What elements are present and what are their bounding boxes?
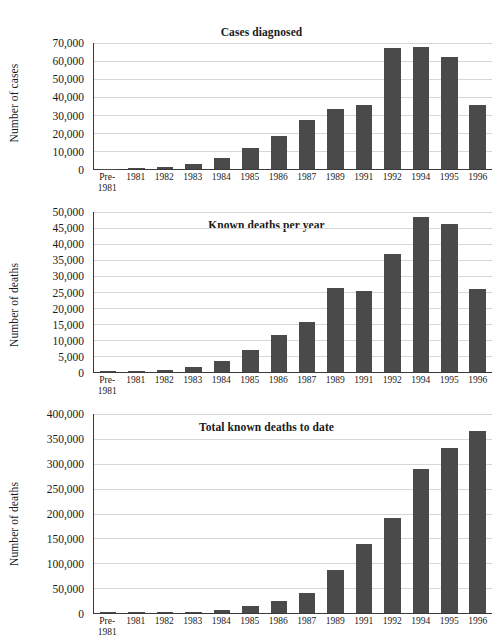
bar-slot [293,43,321,169]
bar-slot [122,43,150,169]
x-axis-tick-label: 1995 [435,172,464,193]
bar [441,224,457,372]
x-axis-tick-label: 1981 [122,616,151,637]
bar-slot [293,414,321,613]
y-axis-tick-label: 5,000 [58,351,84,363]
chart-cases-diagnosed: Number of cases Cases diagnosed 010,0002… [0,0,503,205]
y-axis-tick-label: 200,000 [47,508,84,520]
y-axis-tick-label: 50,000 [52,583,84,595]
bar-slot [435,414,463,613]
x-axis-tick-label: 1985 [236,616,265,637]
bar [441,57,457,169]
x-axis-tick-label: 1989 [321,616,350,637]
bar-slot [407,43,435,169]
x-axis-tick-label: 1991 [350,375,379,396]
x-axis-tick-label: 1996 [464,172,493,193]
chart-stack: Number of cases Cases diagnosed 010,0002… [0,0,503,642]
y-axis-tick-label: 40,000 [52,238,84,250]
bar-slot [407,212,435,372]
x-axis-tick-label: 1984 [207,172,236,193]
y-axis-tick-label: 20,000 [52,128,84,140]
bar [299,593,315,613]
y-axis-tick-label: 400,000 [47,408,84,420]
x-axis-tick-label: 1982 [150,172,179,193]
plot-frame [93,212,492,373]
bar [214,361,230,372]
x-axis-tick-label: 1981 [122,375,151,396]
x-axis-tick-label: 1992 [378,172,407,193]
x-axis-labels: Pre-198119811982198319841985198619871989… [93,375,492,396]
y-axis-tick-label: 10,000 [52,146,84,158]
bar-slot [435,43,463,169]
plot-area: 05,00010,00015,00020,00025,00030,00035,0… [93,212,492,373]
x-axis-tick-label: 1994 [407,616,436,637]
bar [299,120,315,170]
plot-area: 050,000100,000150,000200,000250,000300,0… [93,414,492,614]
bar [157,370,173,372]
bar [356,291,372,372]
bar-slot [265,212,293,372]
y-axis-tick-label: 25,000 [52,287,84,299]
bar-slot [208,43,236,169]
x-axis-tick-label: 1989 [321,172,350,193]
bar-slot [208,414,236,613]
x-axis-tick-label: Pre-1981 [93,375,122,396]
x-axis-tick-label: 1985 [236,172,265,193]
y-axis-tick-label: 50,000 [52,73,84,85]
bar [441,448,457,613]
y-axis-tick-label: 300,000 [47,458,84,470]
x-axis-tick-label: 1992 [378,375,407,396]
bar [185,367,201,372]
y-axis-tick-label: 150,000 [47,533,84,545]
x-axis-tick-label: 1994 [407,375,436,396]
y-axis-tick-label: 250,000 [47,483,84,495]
y-axis-tick-label: 10,000 [52,335,84,347]
bar [157,167,173,169]
x-axis-tick-label: 1991 [350,616,379,637]
bar [242,148,258,169]
x-axis-tick-label: 1996 [464,616,493,637]
bar-slot [463,212,491,372]
x-axis-tick-label: 1982 [150,375,179,396]
y-axis-tick-label: 20,000 [52,303,84,315]
x-axis-labels: Pre-198119811982198319841985198619871989… [93,616,492,637]
bar-slot [350,43,378,169]
bar-slot [122,212,150,372]
x-axis-tick-label: 1983 [179,616,208,637]
x-axis-tick-label: 1981 [122,172,151,193]
bar-slot [265,43,293,169]
y-axis-tick-label: 70,000 [52,37,84,49]
x-axis-tick-label: 1994 [407,172,436,193]
x-axis-tick-label: Pre-1981 [93,172,122,193]
bar [384,48,400,169]
x-axis-tick-label: 1987 [293,616,322,637]
bar-slot [236,212,264,372]
bar-slot [378,414,406,613]
y-axis-tick-label: 30,000 [52,270,84,282]
bar-slot [151,212,179,372]
y-axis-tick-label: 30,000 [52,110,84,122]
bar [242,350,258,372]
bar-slot [236,414,264,613]
bar [327,109,343,169]
bar [356,544,372,613]
x-axis-tick-label: 1995 [435,375,464,396]
bar-slot [350,414,378,613]
bar-slot [208,212,236,372]
bar [128,371,144,372]
x-axis-tick-label: 1983 [179,172,208,193]
y-axis-tick-label: 0 [78,367,84,379]
bar-slot [407,414,435,613]
bar-slot [122,414,150,613]
bar-slot [378,43,406,169]
bar [384,254,400,372]
x-axis-tick-label: 1986 [264,172,293,193]
x-axis-tick-label: 1986 [264,375,293,396]
x-axis-tick-label: Pre-1981 [93,616,122,637]
bar-series [94,414,492,613]
bar [185,164,201,169]
x-axis-tick-label: 1991 [350,172,379,193]
bar [214,158,230,169]
plot-frame [93,414,492,614]
x-axis-tick-label: 1984 [207,616,236,637]
